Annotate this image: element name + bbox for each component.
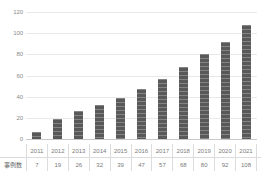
y-tick-label: 20 [17, 115, 23, 121]
bar[interactable] [242, 25, 251, 139]
bar-slot [110, 0, 131, 139]
bar[interactable] [179, 67, 188, 139]
table-cell-value: 68 [173, 158, 194, 172]
table-row-label: 事例数 [0, 158, 27, 172]
table-cell-value: 57 [152, 158, 173, 172]
bar-slot [131, 0, 152, 139]
table-cell-year: 2019 [194, 144, 215, 158]
table-cell-year: 2012 [47, 144, 68, 158]
table-cell-value: 92 [215, 158, 236, 172]
table-cell-year: 2011 [27, 144, 48, 158]
table-cell-value: 108 [236, 158, 257, 172]
y-tick-label: 100 [13, 30, 23, 36]
table-cell-value: 7 [27, 158, 48, 172]
table-cell-year: 2020 [215, 144, 236, 158]
bar-slot [152, 0, 173, 139]
y-tick-label: 40 [17, 94, 23, 100]
y-tick-label: 0 [20, 136, 23, 142]
bar-slot [68, 0, 89, 139]
table-row-values: 事例数 7192632394757688092108 [0, 158, 261, 172]
bars-group [26, 0, 257, 139]
y-axis: 020406080100120 [0, 0, 26, 145]
y-tick-label: 60 [17, 73, 23, 79]
table-spacer-cell [257, 158, 262, 172]
axis-baseline [26, 139, 257, 140]
bar-slot [26, 0, 47, 139]
data-table: 2011201220132014201520162017201820192020… [0, 144, 261, 176]
bar-slot [236, 0, 257, 139]
table-cell-value: 80 [194, 158, 215, 172]
bar[interactable] [95, 105, 104, 139]
table-cell-year: 2016 [131, 144, 152, 158]
bar[interactable] [74, 111, 83, 139]
table-row-years: 2011201220132014201520162017201820192020… [0, 144, 261, 158]
table-spacer-cell [257, 144, 262, 158]
bar[interactable] [32, 132, 41, 139]
bar-slot [194, 0, 215, 139]
bar-slot [173, 0, 194, 139]
bar[interactable] [200, 54, 209, 139]
data-table-grid: 2011201220132014201520162017201820192020… [0, 144, 261, 171]
bar[interactable] [137, 89, 146, 139]
bar-slot [47, 0, 68, 139]
plot-area: 020406080100120 [0, 0, 261, 145]
bar[interactable] [158, 79, 167, 139]
bar-chart-figure: 020406080100120 201120122013201420152016… [0, 0, 261, 176]
table-cell-value: 39 [110, 158, 131, 172]
bar[interactable] [221, 42, 230, 139]
bar-slot [215, 0, 236, 139]
table-cell-year: 2013 [68, 144, 89, 158]
bar[interactable] [116, 98, 125, 139]
table-cell-value: 26 [68, 158, 89, 172]
bar[interactable] [53, 119, 62, 139]
table-cell-year: 2017 [152, 144, 173, 158]
y-tick-label: 120 [13, 9, 23, 15]
y-tick-label: 80 [17, 51, 23, 57]
table-cell-year: 2015 [110, 144, 131, 158]
table-cell-year: 2014 [89, 144, 110, 158]
table-cell-value: 32 [89, 158, 110, 172]
table-cell-year: 2021 [236, 144, 257, 158]
table-corner-cell [0, 144, 27, 158]
table-cell-year: 2018 [173, 144, 194, 158]
table-cell-value: 47 [131, 158, 152, 172]
table-cell-value: 19 [47, 158, 68, 172]
bar-slot [89, 0, 110, 139]
